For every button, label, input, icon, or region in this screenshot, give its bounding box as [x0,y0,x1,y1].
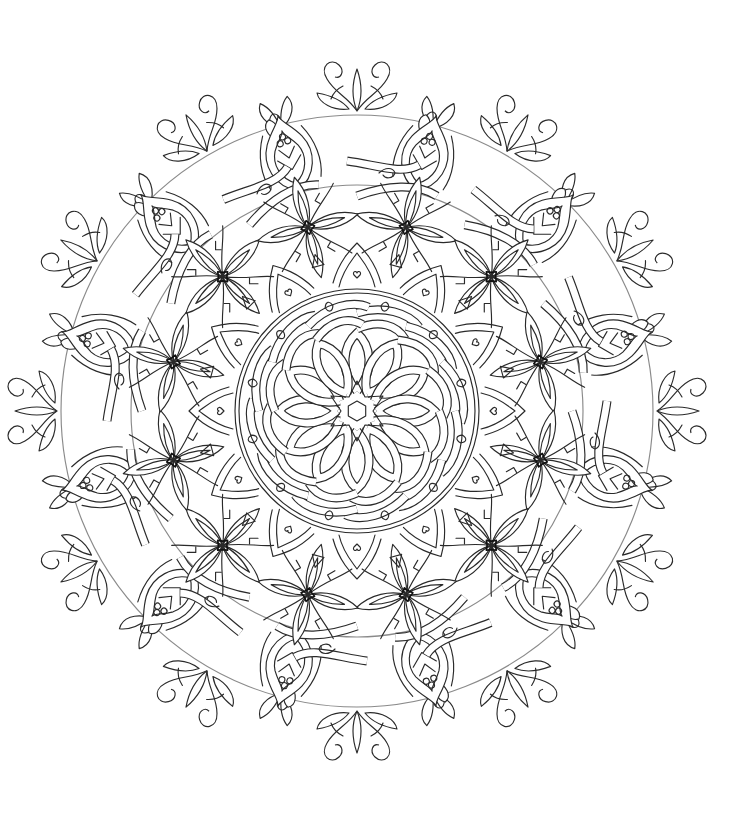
mandala-group [0,52,716,769]
mandala-sectors [0,52,716,769]
coloring-page-canvas [0,0,752,825]
mandala-artwork [0,0,752,825]
